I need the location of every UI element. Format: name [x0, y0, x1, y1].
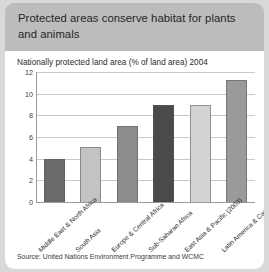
bar	[226, 80, 247, 202]
bar-slot	[36, 72, 73, 202]
x-axis-tick-label: East Asia & Pacific (2003)	[183, 197, 244, 254]
bar	[190, 105, 211, 203]
y-axis-tick-label: 12	[25, 68, 33, 77]
bar	[153, 105, 174, 203]
page-title: Protected areas conserve habitat for pla…	[18, 11, 250, 42]
y-axis-tick-label: 2	[29, 176, 33, 185]
bar-slot	[219, 72, 256, 202]
y-axis-tick-label: 8	[29, 111, 33, 120]
bar-slot	[182, 72, 219, 202]
bar	[80, 147, 101, 202]
y-axis-tick-label: 6	[29, 133, 33, 142]
bar	[44, 159, 65, 202]
bar	[117, 126, 138, 202]
y-axis-tick-label: 4	[29, 154, 33, 163]
chart-card: Protected areas conserve habitat for pla…	[5, 3, 264, 269]
card-header: Protected areas conserve habitat for pla…	[5, 3, 264, 51]
bar-series	[36, 72, 255, 202]
y-axis-tick-label: 0	[29, 198, 33, 207]
x-axis-tick-label: South Asia	[73, 227, 101, 254]
y-axis-tick-label: 10	[25, 89, 33, 98]
card-body: Nationally protected land area (% of lan…	[5, 51, 264, 269]
bar-slot	[73, 72, 110, 202]
bar-slot	[146, 72, 183, 202]
chart-source: Source: United Nations Environment Progr…	[17, 253, 204, 260]
bar-slot	[109, 72, 146, 202]
x-axis-tick-label: Middle East & North Africa	[37, 196, 98, 254]
chart-title: Nationally protected land area (% of lan…	[17, 58, 208, 67]
x-axis-labels: Middle East & North AfricaSouth AsiaEuro…	[36, 204, 255, 254]
chart-plot: 024681012	[27, 72, 255, 203]
x-axis-tick-label: Latin America & Caribbean	[219, 195, 264, 254]
